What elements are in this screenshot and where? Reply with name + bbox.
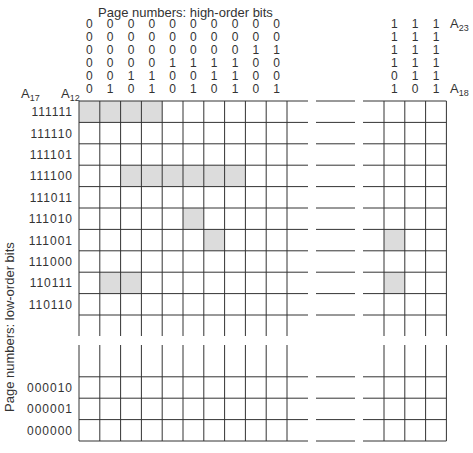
row-labels: 1111111111101111011111001110111110101110…: [27, 105, 73, 438]
shaded-cell: [100, 101, 121, 122]
column-bit: 0: [169, 30, 176, 44]
shaded-cell: [183, 208, 204, 229]
column-bit: 0: [107, 69, 114, 83]
column-bit: 1: [190, 82, 197, 96]
column-bit: 1: [211, 56, 218, 70]
column-bit: 0: [86, 56, 93, 70]
column-bit: 0: [190, 17, 197, 31]
column-bit: 1: [391, 30, 398, 44]
column-bit: 1: [232, 69, 239, 83]
high-order-bits: 0000000000010000100000110001000001010001…: [86, 17, 440, 96]
row-label: 000001: [27, 402, 73, 416]
column-bit: 1: [107, 82, 114, 96]
column-bit: 1: [433, 69, 440, 83]
column-bit: 0: [232, 30, 239, 44]
shaded-cell: [162, 165, 183, 186]
column-bit: 1: [391, 17, 398, 31]
row-label: 111010: [29, 212, 73, 226]
shaded-cell: [384, 272, 405, 293]
shaded-cell: [183, 165, 204, 186]
column-bit: 0: [190, 43, 197, 57]
shaded-cell: [141, 101, 162, 122]
column-bit: 1: [391, 43, 398, 57]
column-bit: 0: [128, 30, 135, 44]
column-bit: 0: [86, 69, 93, 83]
column-bit: 1: [412, 30, 419, 44]
column-bit: 0: [190, 69, 197, 83]
column-bit: 0: [107, 56, 114, 70]
column-bit: 0: [190, 30, 197, 44]
column-bit: 0: [252, 17, 259, 31]
shaded-cell: [204, 229, 225, 250]
column-bit: 0: [273, 56, 280, 70]
column-bit: 0: [128, 17, 135, 31]
column-bit: 0: [148, 30, 155, 44]
shaded-cell: [384, 229, 405, 250]
row-label: 110111: [30, 276, 73, 290]
column-bit: 0: [232, 17, 239, 31]
row-label: 111011: [30, 191, 73, 205]
column-bit: 0: [128, 56, 135, 70]
column-bit: 1: [412, 56, 419, 70]
column-bit: 0: [232, 43, 239, 57]
column-bit: 1: [433, 30, 440, 44]
column-bit: 0: [86, 43, 93, 57]
column-bit: 0: [86, 82, 93, 96]
column-bit: 0: [252, 82, 259, 96]
column-bit: 1: [252, 43, 259, 57]
column-bit: 0: [169, 17, 176, 31]
column-bit: 1: [391, 82, 398, 96]
column-bit: 0: [148, 17, 155, 31]
label-a23: A23: [450, 16, 469, 33]
column-bit: 1: [169, 56, 176, 70]
label-a18: A18: [450, 81, 469, 98]
column-bit: 1: [433, 17, 440, 31]
grid-lines: [79, 101, 446, 441]
shaded-cell: [79, 101, 100, 122]
column-bit: 1: [412, 69, 419, 83]
label-a17: A17: [21, 86, 40, 103]
label-a12: A12: [61, 86, 80, 103]
column-bit: 0: [391, 69, 398, 83]
column-bit: 0: [252, 56, 259, 70]
column-bit: 1: [128, 69, 135, 83]
column-bit: 0: [273, 17, 280, 31]
column-bit: 1: [433, 82, 440, 96]
row-label: 000000: [27, 424, 73, 438]
shaded-cell: [121, 272, 142, 293]
column-bit: 0: [211, 30, 218, 44]
column-bit: 0: [211, 43, 218, 57]
shaded-cell: [225, 165, 246, 186]
column-bit: 0: [169, 43, 176, 57]
column-bit: 1: [190, 56, 197, 70]
column-bit: 1: [273, 43, 280, 57]
column-bit: 1: [391, 56, 398, 70]
column-bit: 1: [148, 69, 155, 83]
column-bit: 0: [86, 17, 93, 31]
column-bit: 0: [412, 82, 419, 96]
column-bit: 1: [273, 82, 280, 96]
column-bit: 0: [252, 30, 259, 44]
column-bit: 1: [433, 43, 440, 57]
row-label: 111101: [30, 148, 73, 162]
column-bit: 0: [273, 30, 280, 44]
page-map-diagram: Page numbers: high-order bits Page numbe…: [0, 0, 473, 453]
diagram-title: Page numbers: high-order bits: [98, 5, 273, 20]
row-label: 110110: [29, 298, 73, 312]
column-bit: 1: [433, 56, 440, 70]
row-label: 111001: [29, 234, 73, 248]
column-bit: 1: [232, 82, 239, 96]
column-bit: 1: [232, 56, 239, 70]
column-bit: 0: [107, 30, 114, 44]
column-bit: 1: [412, 43, 419, 57]
column-bit: 0: [252, 69, 259, 83]
column-bit: 0: [128, 43, 135, 57]
column-bit: 0: [211, 82, 218, 96]
y-axis-label: Page numbers: low-order bits: [2, 242, 17, 412]
shaded-cell: [100, 272, 121, 293]
column-bit: 0: [169, 69, 176, 83]
row-label: 111111: [31, 105, 73, 119]
row-label: 111100: [30, 169, 73, 183]
column-bit: 0: [128, 82, 135, 96]
column-bit: 0: [148, 43, 155, 57]
